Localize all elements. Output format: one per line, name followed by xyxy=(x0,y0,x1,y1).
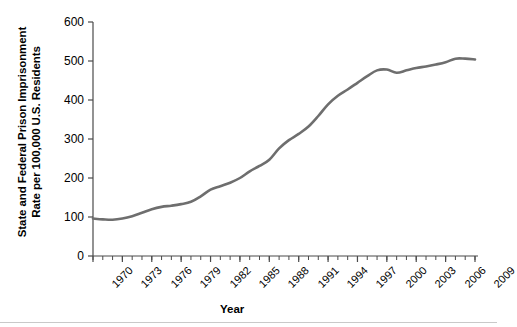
y-tick-label: 200 xyxy=(50,172,84,184)
axes xyxy=(93,22,478,256)
x-axis-major-ticks xyxy=(93,256,475,262)
y-tick-label: 400 xyxy=(50,94,84,106)
y-tick-label: 300 xyxy=(50,133,84,145)
y-axis-ticks xyxy=(88,22,93,256)
bottom-divider xyxy=(0,322,497,323)
x-axis-title: Year xyxy=(220,303,244,315)
data-series-line xyxy=(93,58,475,219)
y-tick-label: 600 xyxy=(50,16,84,28)
y-tick-label: 500 xyxy=(50,55,84,67)
y-tick-label: 100 xyxy=(50,211,84,223)
y-axis-title: State and Federal Prison Imprisonment Ra… xyxy=(15,7,43,257)
y-tick-label: 0 xyxy=(50,250,84,262)
